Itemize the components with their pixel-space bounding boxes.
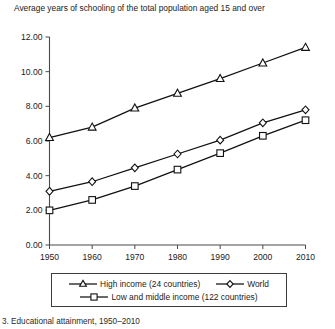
series-3	[46, 117, 309, 214]
data-point-marker	[131, 164, 138, 172]
x-tick-label: 1990	[211, 252, 230, 262]
diamond-marker-icon	[216, 279, 244, 289]
legend-row-1: High income (24 countries) World	[52, 277, 286, 290]
data-point-marker	[174, 166, 181, 173]
y-tick-label: 2.00	[26, 205, 43, 215]
data-point-marker	[132, 183, 139, 190]
figure-caption: 3. Educational attainment, 1950–2010	[2, 317, 140, 326]
data-point-marker	[217, 150, 224, 157]
data-point-marker	[302, 43, 310, 50]
data-point-marker	[89, 178, 96, 186]
legend-label-low-middle-income: Low and middle income (122 countries)	[111, 292, 257, 302]
x-tick-label: 1960	[83, 252, 102, 262]
plot-area: 0.002.004.006.008.0010.0012.001950196019…	[0, 18, 335, 266]
chart-title: Average years of schooling of the total …	[14, 3, 265, 14]
chart-legend: High income (24 countries) World Low and…	[51, 273, 287, 307]
data-point-marker	[260, 133, 267, 140]
data-point-marker	[259, 119, 266, 127]
x-tick-label: 2010	[296, 252, 315, 262]
series-line	[50, 120, 306, 210]
y-tick-label: 6.00	[26, 136, 43, 146]
data-point-marker	[89, 197, 96, 204]
series-1	[46, 43, 310, 140]
square-marker-icon	[80, 292, 108, 302]
data-point-marker	[46, 207, 53, 214]
legend-entry-world: World	[216, 279, 269, 289]
legend-entry-low-middle-income: Low and middle income (122 countries)	[80, 292, 257, 302]
x-tick-label: 2000	[253, 252, 272, 262]
legend-label-world: World	[247, 279, 269, 289]
data-point-marker	[46, 187, 53, 195]
y-tick-label: 4.00	[26, 171, 43, 181]
plot-svg: 0.002.004.006.008.0010.0012.001950196019…	[0, 18, 335, 266]
x-tick-label: 1980	[168, 252, 187, 262]
data-point-marker	[302, 106, 309, 114]
x-tick-label: 1970	[125, 252, 144, 262]
legend-label-high-income: High income (24 countries)	[100, 279, 200, 289]
chart-figure: Average years of schooling of the total …	[0, 0, 335, 329]
y-tick-label: 10.00	[21, 67, 43, 77]
triangle-marker-icon	[69, 279, 97, 289]
series-2	[46, 106, 309, 195]
y-tick-label: 0.00	[26, 240, 43, 250]
data-point-marker	[217, 136, 224, 144]
legend-row-2: Low and middle income (122 countries)	[52, 290, 286, 303]
y-tick-label: 8.00	[26, 101, 43, 111]
legend-entry-high-income: High income (24 countries)	[69, 279, 200, 289]
data-point-marker	[174, 150, 181, 158]
x-tick-label: 1950	[40, 252, 59, 262]
data-point-marker	[302, 117, 309, 124]
y-tick-label: 12.00	[21, 32, 43, 42]
